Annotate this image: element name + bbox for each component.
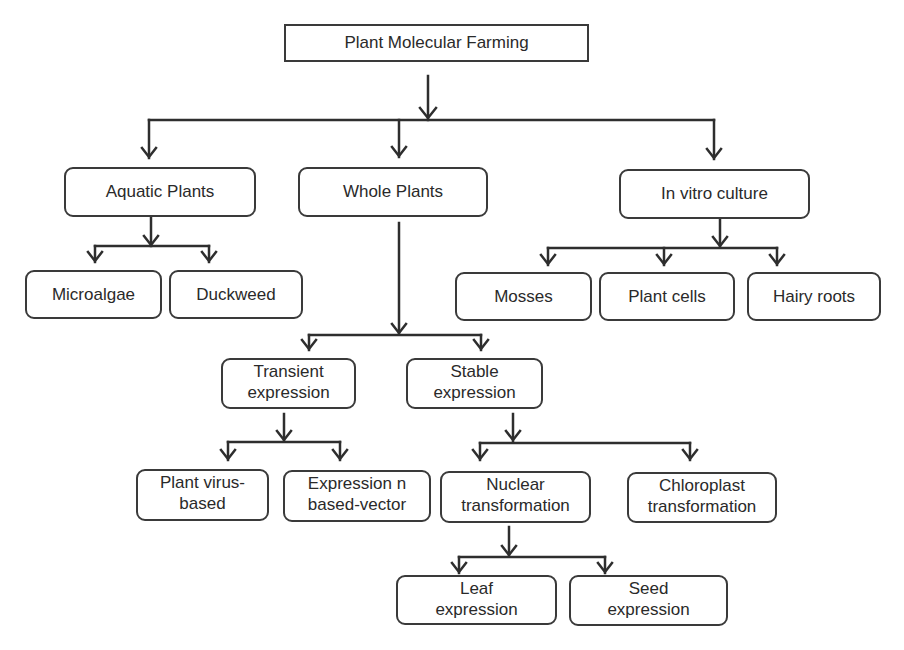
node-label: Stable expression	[433, 361, 515, 403]
node-nuclear-transformation: Nuclear transformation	[440, 471, 591, 523]
node-duckweed: Duckweed	[169, 270, 303, 319]
connector-transient-to-children	[221, 414, 347, 460]
node-label: Plant Molecular Farming	[344, 32, 528, 54]
node-label: Mosses	[494, 286, 553, 308]
node-transient-expression: Transient expression	[221, 358, 356, 409]
node-label: Transient expression	[247, 361, 329, 403]
node-plant-cells: Plant cells	[599, 272, 735, 321]
node-label: Duckweed	[196, 284, 275, 306]
node-label: Expression n based-vector	[308, 473, 406, 515]
connector-stable-to-children	[473, 414, 697, 460]
connector-root-to-level1	[142, 76, 721, 159]
node-plant-molecular-farming: Plant Molecular Farming	[284, 24, 589, 62]
node-label: Leaf expression	[435, 578, 517, 620]
node-mosses: Mosses	[455, 272, 592, 321]
node-in-vitro-culture: In vitro culture	[619, 169, 810, 219]
node-label: Hairy roots	[773, 286, 855, 308]
connector-layer	[0, 0, 904, 650]
node-label: Plant virus- based	[160, 472, 245, 514]
node-chloroplast-transformation: Chloroplast transformation	[627, 472, 777, 523]
node-microalgae: Microalgae	[25, 270, 162, 319]
node-plant-virus-based: Plant virus- based	[136, 469, 269, 521]
node-label: Chloroplast transformation	[648, 475, 757, 517]
node-leaf-expression: Leaf expression	[396, 575, 557, 625]
node-seed-expression: Seed expression	[569, 575, 728, 626]
connector-invitro-to-children	[541, 219, 784, 265]
node-label: Whole Plants	[343, 181, 443, 203]
node-stable-expression: Stable expression	[406, 358, 543, 409]
connector-aquatic-to-children	[88, 217, 216, 262]
node-expression-based-vector: Expression n based-vector	[283, 470, 431, 522]
node-label: Plant cells	[628, 286, 705, 308]
node-label: Seed expression	[607, 578, 689, 620]
node-whole-plants: Whole Plants	[298, 167, 488, 217]
node-label: Microalgae	[52, 284, 135, 306]
node-hairy-roots: Hairy roots	[747, 272, 881, 321]
connector-nuclear-to-children	[452, 527, 612, 573]
node-aquatic-plants: Aquatic Plants	[64, 167, 256, 217]
node-label: In vitro culture	[661, 183, 768, 205]
node-label: Aquatic Plants	[106, 181, 215, 203]
node-label: Nuclear transformation	[461, 474, 570, 516]
